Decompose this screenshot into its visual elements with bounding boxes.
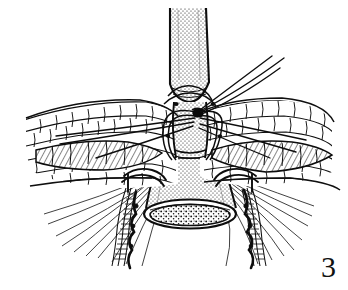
open-lumen-ellipse [144, 200, 236, 229]
proximal-conduit-tube [170, 8, 209, 102]
figure-container: 3 [0, 0, 348, 290]
figure-number-label: 3 [321, 252, 336, 282]
surgical-illustration [0, 0, 348, 290]
abdominal-wall-layers-left [24, 100, 186, 190]
